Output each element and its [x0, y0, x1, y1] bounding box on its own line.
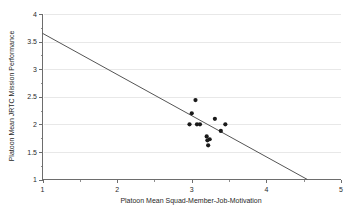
y-axis-tick-label: 2.5 — [27, 93, 37, 100]
y-axis-tick-label: 2 — [33, 121, 37, 128]
y-axis-tick-label: 1 — [33, 176, 37, 183]
data-point — [187, 122, 191, 126]
y-axis-tick-label: 1.5 — [27, 149, 37, 156]
data-point — [223, 122, 227, 126]
y-axis-tick-label: 4 — [33, 11, 37, 18]
y-axis-tick-label: 3.5 — [27, 38, 37, 45]
x-axis-tick-label: 2 — [115, 186, 119, 193]
data-point — [205, 138, 209, 142]
x-axis-title: Platoon Mean Squad-Member-Job-Motivation — [120, 197, 261, 205]
data-point — [213, 117, 217, 121]
scatter-chart-figure: 11.522.533.54 12345 Platoon Mean Squad-M… — [0, 0, 355, 211]
x-axis-tick-label: 4 — [264, 186, 268, 193]
data-point — [193, 98, 197, 102]
y-axis-tick-label: 3 — [33, 66, 37, 73]
scatter-plot-canvas: 11.522.533.54 12345 Platoon Mean Squad-M… — [0, 0, 355, 211]
x-axis-tick-label: 1 — [41, 186, 45, 193]
data-point — [198, 122, 202, 126]
x-axis-tick-label: 3 — [190, 186, 194, 193]
y-axis-title: Platoon Mean JRTC Mission Performance — [8, 31, 15, 162]
data-point — [190, 111, 194, 115]
x-axis-tick-label: 5 — [339, 186, 343, 193]
data-point — [206, 143, 210, 147]
data-point — [219, 129, 223, 133]
